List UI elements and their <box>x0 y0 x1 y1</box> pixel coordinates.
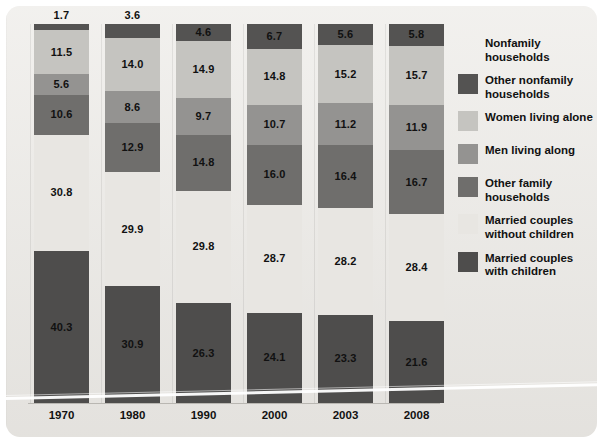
bar-segment[interactable]: 15.2 <box>318 45 373 103</box>
legend-item[interactable]: Other family households <box>458 176 597 204</box>
bar-segment[interactable]: 14.9 <box>176 41 231 97</box>
column-separator <box>172 24 173 403</box>
column-separator <box>314 24 315 403</box>
legend-item[interactable]: Married couples with children <box>458 251 597 279</box>
bar-segment-value: 29.8 <box>192 241 214 252</box>
bar-segment-value: 1.7 <box>54 10 70 21</box>
bar-segment-value: 4.6 <box>196 27 212 38</box>
bar-segment[interactable]: 28.2 <box>318 208 373 315</box>
bar-segment-value: 28.4 <box>405 262 427 273</box>
bar-segment[interactable]: 5.6 <box>318 24 373 45</box>
bar-segment[interactable]: 11.5 <box>34 30 89 73</box>
legend-item[interactable]: Married couples without children <box>458 213 597 241</box>
bar-column-2008[interactable]: 5.815.711.916.728.421.6 <box>389 24 444 403</box>
bar-column-2003[interactable]: 5.615.211.216.428.223.3 <box>318 24 373 403</box>
bar-segment[interactable]: 5.6 <box>34 74 89 95</box>
legend-item[interactable]: Women living alone <box>458 110 597 134</box>
bar-segment[interactable]: 4.6 <box>176 24 231 41</box>
chart-legend: Nonfamily householdsOther nonfamily hous… <box>458 36 597 288</box>
baseline-axis <box>28 403 440 404</box>
bar-segment[interactable]: 3.6 <box>105 24 160 38</box>
column-separator <box>30 24 31 403</box>
bar-segment-value: 14.8 <box>263 71 285 82</box>
bar-segment[interactable]: 8.6 <box>105 91 160 124</box>
column-separator <box>243 24 244 403</box>
legend-color-swatch <box>458 111 478 131</box>
legend-item[interactable]: Nonfamily households <box>458 36 597 64</box>
bar-segment-value: 10.7 <box>263 119 285 130</box>
bar-segment[interactable]: 14.8 <box>176 135 231 191</box>
legend-swatch-placeholder <box>458 37 478 57</box>
bar-segment[interactable]: 16.4 <box>318 145 373 207</box>
bar-segment[interactable]: 10.7 <box>247 105 302 145</box>
bar-segment[interactable]: 16.0 <box>247 145 302 205</box>
bar-segment-value: 3.6 <box>125 10 141 21</box>
bar-column-1970[interactable]: 1.711.55.610.630.840.3 <box>34 24 89 403</box>
legend-color-swatch <box>458 74 478 94</box>
bar-segment-value: 14.0 <box>121 59 143 70</box>
bar-segment-value: 8.6 <box>125 102 141 113</box>
bar-segment[interactable]: 40.3 <box>34 251 89 403</box>
bar-segment[interactable]: 30.9 <box>105 286 160 403</box>
bar-segment[interactable]: 12.9 <box>105 123 160 172</box>
bar-segment[interactable]: 11.9 <box>389 105 444 150</box>
bar-segment[interactable]: 11.2 <box>318 103 373 145</box>
bar-column-1980[interactable]: 3.614.08.612.929.930.9 <box>105 24 160 403</box>
legend-color-swatch <box>458 177 478 197</box>
legend-item-label: Nonfamily households <box>485 36 597 64</box>
bar-segment-value: 5.6 <box>338 29 354 40</box>
bar-column-2000[interactable]: 6.714.810.716.028.724.1 <box>247 24 302 403</box>
column-separator <box>385 24 386 403</box>
legend-item[interactable]: Other nonfamily households <box>458 73 597 101</box>
bar-segment-value: 28.7 <box>263 253 285 264</box>
bar-segment[interactable]: 16.7 <box>389 150 444 213</box>
bar-segment-value: 21.6 <box>405 357 427 368</box>
x-axis-label-2000: 2000 <box>247 409 302 421</box>
column-separator <box>101 24 102 403</box>
bar-segment[interactable]: 15.7 <box>389 46 444 105</box>
bar-segment[interactable]: 28.7 <box>247 205 302 313</box>
bar-segment[interactable]: 24.1 <box>247 313 302 403</box>
bar-segment-value: 30.9 <box>121 339 143 350</box>
legend-color-swatch <box>458 144 478 164</box>
bar-segment[interactable]: 6.7 <box>247 24 302 49</box>
bar-segment-value: 30.8 <box>50 187 72 198</box>
bar-segment-value: 15.2 <box>334 69 356 80</box>
bar-segment-value: 5.6 <box>54 79 70 90</box>
chart-panel: 1.711.55.610.630.840.33.614.08.612.929.9… <box>6 6 597 437</box>
bar-segment-value: 16.4 <box>334 171 356 182</box>
x-axis-label-2008: 2008 <box>389 409 444 421</box>
legend-item[interactable]: Men living along <box>458 143 597 167</box>
bar-segment[interactable]: 14.0 <box>105 38 160 91</box>
bar-segment-value: 28.2 <box>334 256 356 267</box>
bar-segment[interactable]: 23.3 <box>318 315 373 403</box>
legend-item-label: Other nonfamily households <box>485 73 597 101</box>
bar-segment-value: 16.7 <box>405 177 427 188</box>
bar-segment-value: 11.2 <box>335 119 357 130</box>
bar-segment[interactable]: 10.6 <box>34 95 89 135</box>
bar-segment[interactable]: 30.8 <box>34 135 89 251</box>
bar-segment-value: 11.5 <box>51 47 73 58</box>
bar-segment-value: 40.3 <box>50 322 72 333</box>
bar-segment-value: 6.7 <box>267 31 283 42</box>
x-axis-label-1970: 1970 <box>34 409 89 421</box>
bar-segment[interactable]: 26.3 <box>176 303 231 403</box>
bar-segment[interactable]: 29.9 <box>105 172 160 285</box>
x-axis-label-2003: 2003 <box>318 409 373 421</box>
legend-color-swatch <box>458 214 478 234</box>
stacked-bar-plot: 1.711.55.610.630.840.33.614.08.612.929.9… <box>28 24 440 419</box>
bar-segment[interactable]: 14.8 <box>247 49 302 105</box>
bar-segment[interactable]: 5.8 <box>389 24 444 46</box>
legend-item-label: Other family households <box>485 176 597 204</box>
bar-segment[interactable]: 21.6 <box>389 321 444 403</box>
bar-segment-value: 23.3 <box>334 353 356 364</box>
bar-segment[interactable]: 29.8 <box>176 191 231 304</box>
bar-segment-value: 11.9 <box>406 122 428 133</box>
bar-segment-value: 10.6 <box>50 109 72 120</box>
bar-segment[interactable]: 28.4 <box>389 214 444 322</box>
legend-item-label: Married couples with children <box>485 251 597 279</box>
bar-segment-value: 14.9 <box>192 64 214 75</box>
bar-segment[interactable]: 9.7 <box>176 98 231 135</box>
bar-segment-value: 24.1 <box>263 352 285 363</box>
bar-column-1990[interactable]: 4.614.99.714.829.826.3 <box>176 24 231 403</box>
